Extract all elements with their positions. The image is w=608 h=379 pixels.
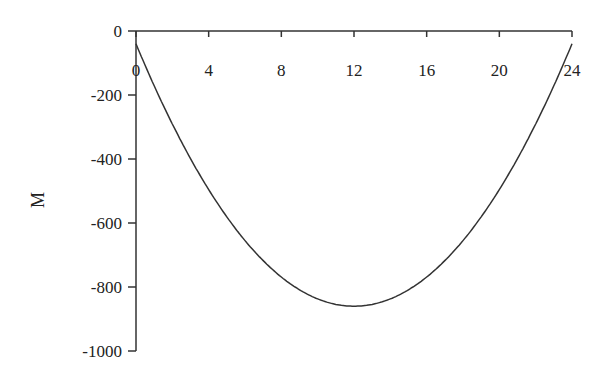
tick-labels: 048121620240-200-400-600-800-1000 [82, 22, 581, 361]
x-tick-label: 20 [491, 61, 508, 80]
y-tick-label: -600 [91, 214, 122, 233]
y-tick-label: -800 [91, 278, 122, 297]
series-line-M [136, 44, 572, 306]
x-tick-label: 12 [346, 61, 363, 80]
y-tick-label: -400 [91, 150, 122, 169]
x-tick-label: 4 [204, 61, 213, 80]
x-tick-label: 24 [564, 61, 582, 80]
x-tick-label: 8 [277, 61, 286, 80]
y-tick-label: -200 [91, 86, 122, 105]
x-tick-label: 0 [132, 61, 141, 80]
moment-chart: 048121620240-200-400-600-800-1000 M [0, 0, 608, 379]
y-tick-label: 0 [114, 22, 123, 41]
y-tick-label: -1000 [82, 342, 122, 361]
x-tick-label: 16 [418, 61, 435, 80]
y-axis-label: M [28, 192, 48, 208]
